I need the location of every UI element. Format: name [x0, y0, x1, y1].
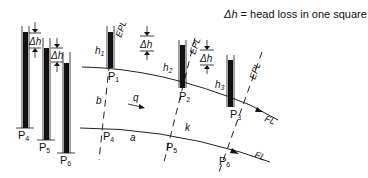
label-b: b	[96, 95, 102, 106]
flow-arrow-icon	[255, 107, 263, 112]
head-h3: h3	[215, 79, 225, 91]
point-p2: P2	[179, 90, 190, 103]
q-arrow-icon	[128, 104, 145, 109]
piezometer-p1	[107, 26, 114, 68]
delta-h-indicator-2: Δh	[199, 40, 214, 74]
head-h1: h1	[95, 45, 105, 57]
svg-text:Δh: Δh	[50, 50, 64, 61]
label-k: k	[185, 122, 191, 133]
flownet-diagram: Δh Δh Δh Δh EPL EPL EPL FL FL h1 h2	[0, 0, 368, 178]
delta-h-indicator-left-2: Δh	[50, 38, 64, 72]
epl-label-3: EPL	[247, 61, 262, 80]
point-p5-flownet: P5	[166, 141, 177, 154]
svg-text:Δh: Δh	[139, 39, 153, 50]
piezometer-p6	[57, 52, 75, 153]
delta-h-indicator-left-1: Δh	[28, 22, 42, 58]
label-q: q	[133, 92, 139, 103]
epl-label-1: EPL	[113, 19, 128, 38]
piezometer-p3	[227, 55, 234, 107]
fl-label-upper: FL	[263, 113, 276, 126]
delta-h-indicator-1: Δh	[139, 26, 154, 60]
point-p6-flownet: P6	[219, 155, 230, 168]
head-h2: h2	[163, 62, 173, 74]
point-p4-flownet: P4	[103, 130, 114, 143]
svg-text:Δh: Δh	[28, 36, 42, 47]
label-a: a	[130, 132, 136, 143]
point-p5-tube: P5	[39, 141, 50, 154]
point-p1: P1	[108, 70, 119, 83]
svg-text:Δh: Δh	[199, 53, 213, 64]
point-p3: P3	[230, 108, 241, 121]
point-p4-tube: P4	[18, 129, 29, 142]
point-p6-tube: P6	[60, 154, 71, 167]
piezometer-p2	[179, 40, 186, 88]
